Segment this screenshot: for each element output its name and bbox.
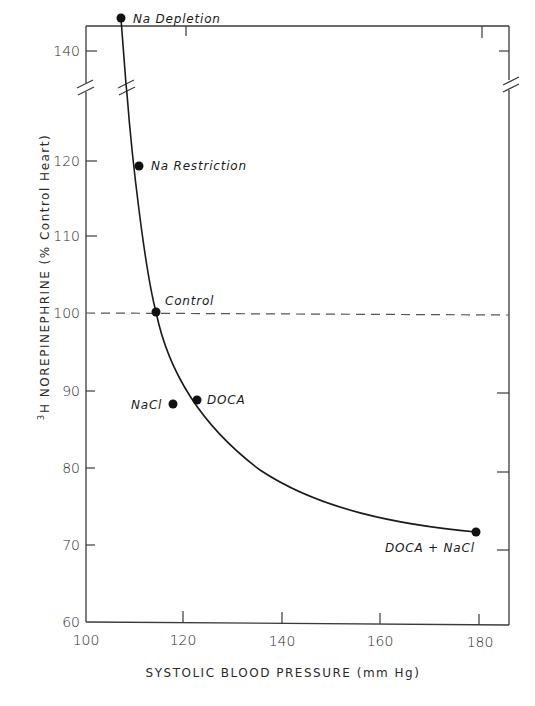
label-nacl: NaCl <box>131 398 162 412</box>
axis-break-marks <box>77 77 519 95</box>
y-axis-title-superscript: 3 <box>37 413 46 420</box>
svg-text:100: 100 <box>53 305 80 321</box>
point-doca <box>193 396 202 405</box>
y-axis-ticks <box>86 51 97 545</box>
svg-text:120: 120 <box>53 153 80 169</box>
y-axis-title-main: H NOREPINEPHRINE (% Control Heart) <box>38 134 52 413</box>
svg-text:120: 120 <box>170 632 197 648</box>
svg-text:110: 110 <box>53 228 80 244</box>
point-nacl <box>169 400 178 409</box>
point-labels: Na Depletion Na Restriction Control NaCl… <box>131 12 475 555</box>
x-axis-tick-labels: 100 120 140 160 180 <box>73 632 494 650</box>
x-axis-ticks <box>183 26 482 625</box>
svg-text:160: 160 <box>367 633 394 649</box>
svg-text:70: 70 <box>62 537 80 553</box>
svg-text:80: 80 <box>62 460 80 476</box>
point-control <box>152 308 161 317</box>
svg-text:90: 90 <box>62 383 80 399</box>
svg-text:100: 100 <box>73 632 100 648</box>
svg-text:60: 60 <box>62 614 80 630</box>
fitted-curve <box>121 19 476 532</box>
y-axis-tick-labels: 140 120 110 100 90 80 70 60 <box>53 43 80 630</box>
svg-text:180: 180 <box>467 634 494 650</box>
label-doca-nacl: DOCA + NaCl <box>385 541 475 555</box>
label-na-restriction: Na Restriction <box>151 159 247 173</box>
label-na-depletion: Na Depletion <box>133 12 221 26</box>
svg-text:140: 140 <box>53 43 80 59</box>
right-axis-ticks <box>497 51 509 550</box>
reference-line-100 <box>86 313 509 315</box>
data-points <box>117 14 481 537</box>
point-na-depletion <box>117 14 126 23</box>
svg-text:140: 140 <box>269 633 296 649</box>
label-control: Control <box>165 294 214 308</box>
point-na-restriction <box>135 162 144 171</box>
plot-frame <box>86 26 509 625</box>
label-doca: DOCA <box>207 393 245 407</box>
point-doca-nacl <box>472 528 481 537</box>
x-axis-title: SYSTOLIC BLOOD PRESSURE (mm Hg) <box>146 666 421 680</box>
y-axis-title: 3 H NOREPINEPHRINE (% Control Heart) <box>37 134 52 420</box>
chart: 140 120 110 100 90 80 70 60 100 120 140 … <box>0 0 535 706</box>
